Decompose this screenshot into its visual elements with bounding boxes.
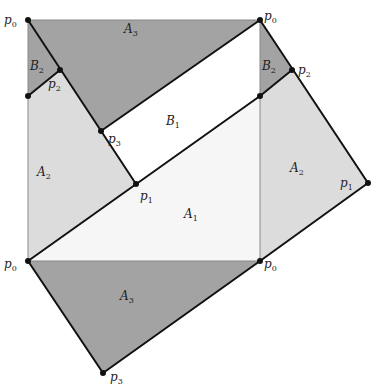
point-label-p0: p0 xyxy=(264,9,277,25)
geometry-diagram: A3B2B1A2A1B2A2A3p0p0p2p2p3p1p1p0p0p3 xyxy=(0,0,382,390)
point-label-p0: p0 xyxy=(264,257,277,273)
point-label-p3: p3 xyxy=(110,370,123,386)
point-label-p0: p0 xyxy=(4,257,17,273)
region-a2-right xyxy=(260,70,368,261)
region-a3-bottom xyxy=(28,261,260,373)
point-label-p2: p2 xyxy=(298,63,311,79)
point-label-p0: p0 xyxy=(4,13,17,29)
